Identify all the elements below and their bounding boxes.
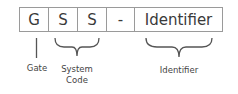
identifier-label: Identifier bbox=[154, 65, 204, 76]
system-label-line2: Code bbox=[57, 75, 97, 86]
gate-label: Gate bbox=[22, 63, 52, 74]
annotation-lines bbox=[0, 0, 238, 94]
system-code-label: System Code bbox=[57, 64, 97, 86]
system-code-brace bbox=[55, 38, 99, 56]
system-label-line1: System bbox=[57, 64, 97, 75]
identifier-brace bbox=[146, 38, 212, 57]
